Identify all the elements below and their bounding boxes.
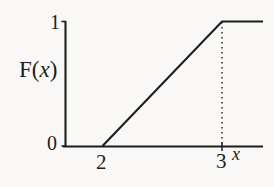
y-axis-title-var: x [39,57,49,82]
y-axis-title-prefix: F( [19,57,39,82]
y-axis-title-suffix: ) [50,57,58,82]
cdf-figure: F(x) 1 0 2 3 x [0,0,274,187]
x-tick-label-3: 3 [216,151,227,172]
y-axis-title: F(x) [19,58,57,81]
y-tick-label-1: 1 [50,12,60,32]
y-tick-label-0: 0 [47,133,57,153]
x-tick-label-2: 2 [96,152,107,173]
x-axis-title: x [232,145,240,163]
cdf-curve [103,22,264,147]
